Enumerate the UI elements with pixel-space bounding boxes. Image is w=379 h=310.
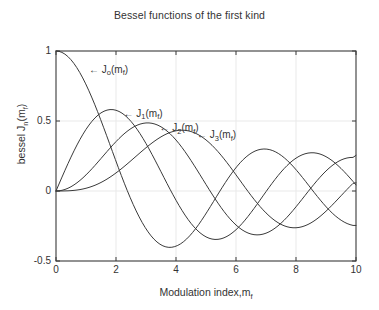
annotation-arg-sub: f <box>231 134 233 143</box>
x-tick-label: 4 <box>161 264 191 275</box>
annotation-arg-close: ) <box>233 129 236 140</box>
y-tick-label: 0.5 <box>17 115 51 126</box>
y-tick-label: 0 <box>17 185 51 196</box>
annotation-order-sub: 2 <box>177 127 181 136</box>
annotation-order-sub: 3 <box>215 134 219 143</box>
tick-marks <box>56 51 356 261</box>
annotation-order-sub: o <box>107 68 111 77</box>
figure-canvas: Bessel functions of the first kind besse… <box>0 0 379 310</box>
annotation-arg-open: (m <box>145 108 157 119</box>
x-tick-label: 2 <box>101 264 131 275</box>
annotation-order-sub: 1 <box>141 112 145 121</box>
annotation-j3mf: ← J3(mf) <box>197 129 236 140</box>
annotation-j2mf: ← J2(mf) <box>160 122 199 133</box>
annotation-arg-sub: f <box>193 127 195 136</box>
annotation-arrow-label: ← J <box>89 64 107 75</box>
annotation-arg-sub: f <box>157 112 159 121</box>
annotation-arrow-label: ← J <box>197 129 215 140</box>
y-tick-label: 1 <box>17 45 51 56</box>
annotation-arrow-label: ← J <box>160 122 178 133</box>
axes-frame <box>56 51 356 261</box>
x-tick-label: 6 <box>221 264 251 275</box>
x-tick-label: 10 <box>341 264 371 275</box>
x-tick-label: 8 <box>281 264 311 275</box>
gridlines <box>56 51 356 261</box>
annotation-j1mf: ← J1(mf) <box>124 108 163 119</box>
data-curves <box>56 51 356 247</box>
annotation-arg-close: ) <box>159 108 162 119</box>
annotation-arg-sub: f <box>123 68 125 77</box>
annotation-arg-open: (m <box>181 122 193 133</box>
annotation-arg-open: (m <box>111 64 123 75</box>
annotation-arg-close: ) <box>125 64 128 75</box>
annotation-j0mf: ← Jo(mf) <box>89 64 128 75</box>
y-tick-label: -0.5 <box>17 255 51 266</box>
annotation-arrow-label: ← J <box>124 108 142 119</box>
curve-j0mf <box>56 51 356 247</box>
annotation-arg-open: (m <box>219 129 231 140</box>
